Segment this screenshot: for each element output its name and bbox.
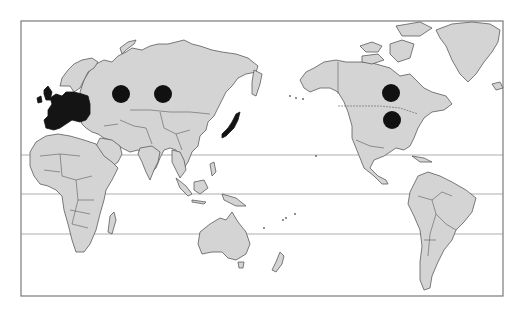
island-speck bbox=[289, 95, 291, 97]
island-speck bbox=[294, 213, 296, 215]
marker-canada bbox=[382, 84, 400, 102]
island-speck bbox=[295, 97, 297, 99]
island-speck bbox=[282, 219, 284, 221]
island-speck bbox=[285, 217, 287, 219]
world-map bbox=[0, 0, 517, 312]
island-speck bbox=[263, 227, 265, 229]
map-canvas bbox=[0, 0, 517, 312]
marker-russia-central bbox=[154, 85, 172, 103]
island-speck bbox=[302, 98, 304, 100]
tasmania bbox=[238, 262, 244, 268]
marker-usa bbox=[383, 111, 401, 129]
marker-russia-west bbox=[112, 85, 130, 103]
island-speck bbox=[315, 155, 317, 157]
